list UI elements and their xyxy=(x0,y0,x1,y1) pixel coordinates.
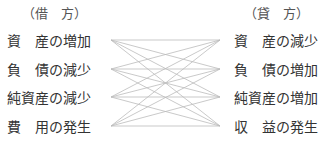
credit-item: 収 益の発生 xyxy=(234,116,318,136)
credit-item: 負 債の増加 xyxy=(234,59,318,79)
credit-header: （貸 方） xyxy=(244,3,309,22)
credit-item: 純資産の増加 xyxy=(234,87,318,107)
credit-item: 資 産の減少 xyxy=(234,30,318,50)
